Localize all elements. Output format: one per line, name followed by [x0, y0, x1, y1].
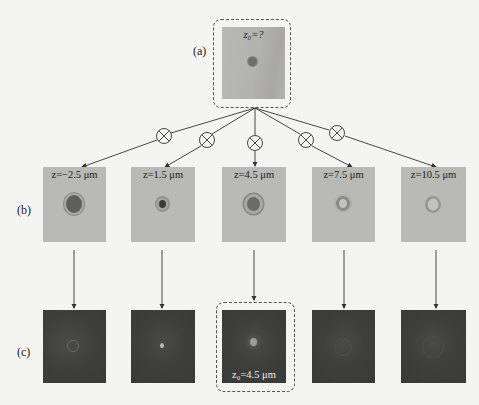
depth-caption: z=4.5 μm	[222, 169, 286, 180]
circle-times-icon	[200, 133, 215, 148]
input-hologram-image: z₀=?	[222, 27, 285, 99]
panel-label-a: (a)	[193, 44, 206, 59]
reference-hologram-image: z=1.5 μm	[131, 167, 195, 242]
bright-spot	[160, 343, 164, 348]
diffraction-pattern	[66, 195, 82, 213]
reference-hologram-image: z=4.5 μm	[222, 167, 286, 242]
circle-times-icon	[330, 126, 345, 141]
bright-spot	[67, 340, 79, 352]
correlation-result-image	[43, 310, 106, 383]
depth-caption: z=10.5 μm	[401, 169, 466, 180]
diffraction-pattern	[247, 197, 260, 211]
bright-spot	[250, 338, 257, 346]
diffraction-pattern	[425, 196, 441, 213]
ring-pattern	[422, 336, 444, 358]
circle-times-icon	[157, 129, 172, 144]
depth-caption: z=7.5 μm	[312, 169, 375, 180]
correlation-result-image: z₀=4.5 μm	[222, 310, 286, 383]
circle-times-icon	[248, 136, 263, 151]
circle-times-icon	[299, 133, 314, 148]
panel-label-c: (c)	[17, 345, 30, 360]
panel-label-b: (b)	[17, 203, 31, 218]
particle-spot	[248, 57, 257, 66]
correlation-result-image	[401, 310, 466, 383]
diffraction-pattern	[159, 200, 166, 208]
reference-hologram-image: z=7.5 μm	[312, 167, 375, 242]
depth-caption: z=−2.5 μm	[43, 169, 106, 180]
ring-pattern	[334, 338, 352, 356]
correlation-result-image	[131, 310, 195, 383]
diffraction-pattern	[336, 196, 350, 211]
input-hologram-caption: z₀=?	[222, 29, 285, 40]
depth-caption: z=1.5 μm	[131, 169, 195, 180]
reference-hologram-image: z=−2.5 μm	[43, 167, 106, 242]
correlation-result-image	[312, 310, 375, 383]
reference-hologram-image: z=10.5 μm	[401, 167, 466, 242]
best-match-caption: z₀=4.5 μm	[222, 369, 286, 380]
